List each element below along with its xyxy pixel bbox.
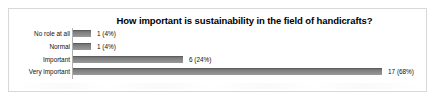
value-label-important: 6 (24%) xyxy=(189,55,211,64)
value-label-very-important: 17 (68%) xyxy=(388,67,414,76)
bar-row[interactable]: Normal 1 (4%) xyxy=(9,41,427,54)
chart-container: How important is sustainability in the f… xyxy=(8,8,427,92)
category-label-no-role-at-all: No role at all xyxy=(34,29,70,38)
bar-no-role-at-all[interactable] xyxy=(73,30,91,37)
category-label-important: Important xyxy=(43,55,70,64)
value-label-normal: 1 (4%) xyxy=(97,42,116,51)
category-label-normal: Normal xyxy=(49,42,70,51)
value-label-no-role-at-all: 1 (4%) xyxy=(97,29,116,38)
category-label-very-important: Very important xyxy=(29,67,70,76)
scan-artifact xyxy=(18,83,418,89)
plot-area: No role at all 1 (4%) Normal 1 (4%) Impo… xyxy=(9,28,427,80)
bar-very-important[interactable] xyxy=(73,68,382,75)
bar-row[interactable]: No role at all 1 (4%) xyxy=(9,28,427,41)
bar-important[interactable] xyxy=(73,56,183,63)
bar-row[interactable]: Very important 17 (68%) xyxy=(9,66,427,79)
bar-normal[interactable] xyxy=(73,43,91,50)
bar-row[interactable]: Important 6 (24%) xyxy=(9,54,427,67)
chart-title: How important is sustainability in the f… xyxy=(9,15,427,26)
